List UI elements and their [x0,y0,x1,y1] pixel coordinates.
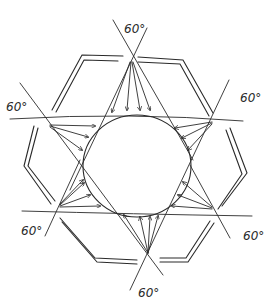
angle-label-upper-left: 60° [6,100,27,114]
central-circle [83,115,191,217]
diagram-canvas: 60° 60° 60° 60° 60° 60° [0,0,273,306]
angle-label-lower-right: 60° [243,229,264,243]
angle-label-lower-left: 60° [21,224,42,238]
arrows [50,62,212,253]
angle-label-upper-right: 60° [240,91,261,105]
angle-label-bottom: 60° [138,286,159,300]
construction-lines [10,20,252,290]
angle-label-top: 60° [124,22,145,36]
